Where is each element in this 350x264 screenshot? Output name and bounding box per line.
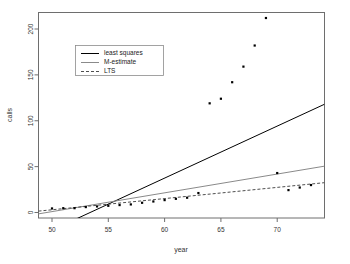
scatter-plot: 050100150200 5055606570 year calls least… <box>0 0 350 264</box>
legend-label: LTS <box>104 67 116 74</box>
y-tick-label: 150 <box>27 69 34 80</box>
x-tick-label: 70 <box>274 226 282 233</box>
data-point <box>254 44 256 46</box>
data-point <box>310 184 312 186</box>
x-tick-label: 50 <box>48 226 56 233</box>
data-point <box>220 98 222 100</box>
x-tick-label: 60 <box>161 226 169 233</box>
data-point <box>130 203 132 205</box>
y-axis-label: calls <box>6 108 13 123</box>
data-point <box>96 205 98 207</box>
data-point <box>85 206 87 208</box>
data-point <box>186 197 188 199</box>
x-tick-label: 55 <box>105 226 113 233</box>
x-axis-label: year <box>174 246 188 254</box>
data-point <box>107 205 109 207</box>
data-point <box>299 186 301 188</box>
data-point <box>141 202 143 204</box>
data-point <box>118 204 120 206</box>
data-point <box>164 199 166 201</box>
y-tick-label: 0 <box>27 210 34 214</box>
data-point <box>276 172 278 174</box>
data-point <box>62 207 64 209</box>
y-tick-label: 200 <box>27 23 34 34</box>
figure-background <box>0 0 350 264</box>
data-point <box>73 207 75 209</box>
y-tick-label: 100 <box>27 115 34 126</box>
data-point <box>152 200 154 202</box>
chart-figure: 050100150200 5055606570 year calls least… <box>0 0 350 264</box>
data-point <box>51 207 53 209</box>
data-point <box>265 17 267 19</box>
chart-legend: least squaresM-estimateLTS <box>76 46 164 76</box>
legend-label: M-estimate <box>104 58 137 65</box>
data-point <box>209 102 211 104</box>
legend-label: least squares <box>104 49 143 57</box>
data-point <box>197 192 199 194</box>
x-tick-label: 65 <box>217 226 225 233</box>
data-point <box>242 66 244 68</box>
data-point <box>231 81 233 83</box>
y-tick-label: 50 <box>27 163 34 171</box>
data-point <box>175 198 177 200</box>
data-point <box>287 189 289 191</box>
